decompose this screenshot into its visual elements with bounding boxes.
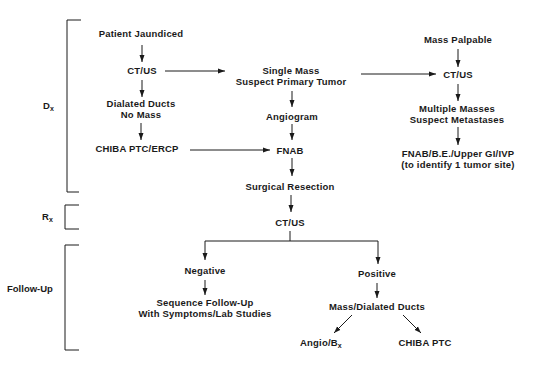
phase-label-rx: Rx (42, 211, 53, 223)
node-ct-us-followup: CT/US (275, 217, 305, 228)
node-positive: Positive (358, 268, 396, 279)
fnab-be-line1: FNAB/B.E./Upper GI/IVP (401, 148, 514, 159)
angio-bx-sub: x (338, 342, 342, 349)
node-negative: Negative (184, 265, 225, 276)
node-multiple-masses: Multiple Masses Suspect Metastases (410, 103, 504, 125)
node-angiogram: Angiogram (266, 111, 318, 122)
node-mass-palpable: Mass Palpable (424, 34, 492, 45)
phase-label-dx: Dx (43, 100, 54, 112)
phase-label-follow-up: Follow-Up (7, 283, 53, 294)
fnab-be-line2: (to identify 1 tumor site) (401, 159, 514, 170)
multiple-masses-line2: Suspect Metastases (410, 114, 504, 125)
sequence-line2: With Symptoms/Lab Studies (138, 308, 271, 319)
node-surgical-resection: Surgical Resection (245, 181, 334, 192)
angio-bx-main: Angio/B (300, 337, 338, 348)
single-mass-line1: Single Mass (236, 65, 347, 76)
node-mass-dialated-ducts: Mass/Dialated Ducts (329, 301, 425, 312)
phase-dx-sub: x (50, 105, 54, 112)
dx-bracket (67, 20, 81, 192)
node-ct-us-right: CT/US (443, 69, 473, 80)
node-angio-bx: Angio/Bx (300, 337, 342, 351)
node-dialated-ducts: Dialated Ducts No Mass (107, 98, 176, 120)
sequence-line1: Sequence Follow-Up (138, 297, 271, 308)
multiple-masses-line1: Multiple Masses (410, 103, 504, 114)
dialated-ducts-line1: Dialated Ducts (107, 98, 176, 109)
node-chiba-ptc-ercp: CHIBA PTC/ERCP (95, 143, 178, 154)
phase-rx-sub: x (49, 216, 53, 223)
phase-dx-main: D (43, 100, 50, 111)
phase-rx-main: R (42, 211, 49, 222)
rx-bracket (65, 205, 79, 229)
node-patient-jaundiced: Patient Jaundiced (99, 28, 184, 39)
node-fnab: FNAB (276, 145, 303, 156)
follow-up-bracket (65, 245, 79, 350)
node-ct-us-left: CT/US (127, 65, 157, 76)
node-fnab-be-upper-gi-ivp: FNAB/B.E./Upper GI/IVP (to identify 1 tu… (401, 148, 514, 170)
node-single-mass: Single Mass Suspect Primary Tumor (236, 65, 347, 87)
node-sequence-follow-up: Sequence Follow-Up With Symptoms/Lab Stu… (138, 297, 271, 319)
dialated-ducts-line2: No Mass (107, 109, 176, 120)
node-chiba-ptc: CHIBA PTC (398, 337, 451, 348)
single-mass-line2: Suspect Primary Tumor (236, 76, 347, 87)
